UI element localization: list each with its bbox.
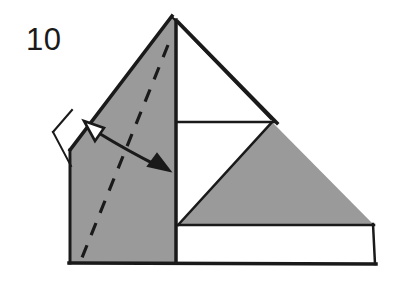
outline-bottom: [69, 263, 376, 264]
gray-left-panel: [70, 16, 175, 263]
white-base-bottom-band: [176, 225, 375, 263]
origami-figure: [0, 0, 413, 285]
origami-diagram-page: 10: [0, 0, 413, 285]
